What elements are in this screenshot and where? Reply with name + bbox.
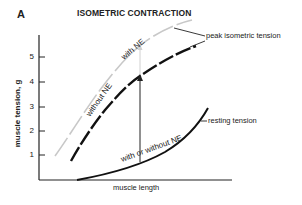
y-tick-label-1: 1 (24, 150, 34, 159)
resting-tension-curve (77, 108, 208, 180)
x-axis-label: muscle length (113, 183, 159, 192)
y-tick-label-4: 4 (24, 77, 34, 86)
figure: A ISOMETRIC CONTRACTION with (0, 0, 302, 205)
y-tick-label-3: 3 (24, 102, 34, 111)
peak-isometric-tension-label: peak isometric tension (206, 31, 281, 40)
y-tick-label-5: 5 (24, 52, 34, 61)
y-axis-label: muscle tension, g (13, 74, 22, 154)
without-ne-label: without NE (84, 81, 114, 119)
y-tick-label-2: 2 (24, 126, 34, 135)
peak-leader-upper (174, 28, 205, 36)
peak-leader-lower (190, 41, 205, 47)
y-ticks (39, 57, 45, 155)
resting-tension-label: resting tension (208, 116, 257, 125)
